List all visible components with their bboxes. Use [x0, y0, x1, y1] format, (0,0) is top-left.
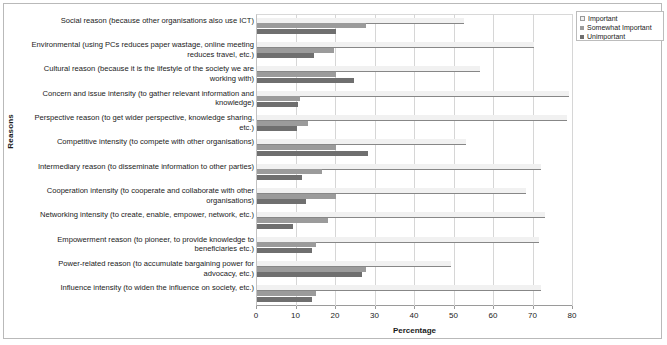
x-tick-label-40: 40: [401, 311, 427, 320]
bar: [257, 242, 316, 247]
category-label: Environmental (using PCs reduces paper w…: [26, 40, 254, 59]
bar: [257, 102, 298, 107]
legend-item: Unimportant: [580, 32, 660, 41]
gridline-70: [533, 14, 534, 306]
legend-label: Important: [588, 14, 618, 23]
category-label: Intermediary reason (to disseminate info…: [26, 162, 254, 172]
tick-mark-30: [375, 306, 376, 309]
bar: [257, 151, 368, 156]
category-label: Concern and issue intensity (to gather r…: [26, 89, 254, 108]
tick-mark-50: [454, 306, 455, 309]
tick-mark-20: [335, 306, 336, 309]
x-tick-label-80: 80: [559, 311, 585, 320]
category-label-list: Social reason (because other organisatio…: [22, 14, 254, 306]
tick-mark-40: [414, 306, 415, 309]
legend-swatch-icon: [580, 35, 584, 39]
legend-swatch-icon: [580, 26, 584, 30]
bar: [257, 78, 354, 83]
bar: [257, 224, 293, 229]
chart-figure: Reasons Social reason (because other org…: [3, 3, 662, 339]
tick-mark-70: [533, 306, 534, 309]
category-label: Social reason (because other organisatio…: [26, 16, 254, 26]
gridline-80: [572, 14, 573, 306]
bar: [257, 91, 569, 97]
tick-mark-0: [256, 306, 257, 309]
x-tick-label-50: 50: [441, 311, 467, 320]
legend-swatch-icon: [580, 16, 585, 21]
bar: [257, 72, 336, 77]
x-axis-title: Percentage: [256, 326, 573, 335]
bar: [257, 29, 336, 34]
category-label: Power-related reason (to accumulate barg…: [26, 259, 254, 278]
bar: [257, 267, 366, 272]
bar: [257, 48, 334, 53]
x-tick-label-0: 0: [243, 311, 269, 320]
chart-legend: ImportantSomewhat ImportantUnimportant: [576, 11, 664, 41]
legend-item: Important: [580, 14, 660, 23]
category-label: Empowerment reason (to pioneer, to provi…: [26, 235, 254, 254]
bar: [257, 145, 336, 150]
legend-label: Unimportant: [587, 32, 625, 41]
bar: [257, 272, 362, 277]
gridline-50: [454, 14, 455, 306]
bar: [257, 175, 302, 180]
tick-mark-60: [493, 306, 494, 309]
bar: [257, 218, 328, 223]
x-tick-label-30: 30: [362, 311, 388, 320]
x-tick-label-60: 60: [480, 311, 506, 320]
bar: [257, 169, 322, 174]
bar: [257, 199, 306, 204]
category-label: Cultural reason (because it is the lifes…: [26, 64, 254, 83]
category-label: Influence intensity (to widen the influe…: [26, 283, 254, 293]
legend-label: Somewhat Important: [587, 23, 652, 32]
bar: [257, 291, 316, 296]
bar: [257, 53, 314, 58]
category-label: Cooperation intensity (to cooperate and …: [26, 186, 254, 205]
x-tick-label-70: 70: [520, 311, 546, 320]
tick-mark-80: [572, 306, 573, 309]
bar: [257, 96, 300, 101]
bar: [257, 248, 312, 253]
x-tick-label-20: 20: [322, 311, 348, 320]
category-label: Perspective reason (to get wider perspec…: [26, 113, 254, 132]
bar: [257, 194, 336, 199]
tick-mark-10: [296, 306, 297, 309]
plot-area: 01020304050607080: [256, 14, 573, 306]
bar: [257, 23, 366, 28]
legend-item: Somewhat Important: [580, 23, 660, 32]
bar: [257, 121, 308, 126]
bar: [257, 297, 312, 302]
category-label: Networking intensity (to create, enable,…: [26, 210, 254, 220]
x-tick-label-10: 10: [283, 311, 309, 320]
category-label: Competitive intensity (to compete with o…: [26, 137, 254, 147]
gridline-60: [493, 14, 494, 306]
y-axis-title: Reasons: [6, 114, 20, 149]
bar: [257, 126, 297, 131]
